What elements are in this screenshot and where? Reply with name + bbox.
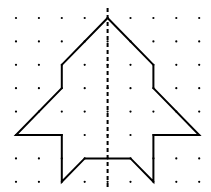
grid-dot	[84, 17, 86, 19]
grid-dot	[15, 157, 17, 159]
grid-dot	[84, 134, 86, 136]
grid-dot	[198, 157, 200, 159]
grid-dot	[61, 40, 63, 42]
grid-dot	[152, 17, 154, 19]
grid-dot	[198, 40, 200, 42]
grid-dot	[107, 181, 109, 183]
grid-dot	[38, 64, 40, 66]
grid-dot	[38, 17, 40, 19]
grid-dot	[175, 87, 177, 89]
grid-dot	[84, 87, 86, 89]
grid-dot	[152, 111, 154, 113]
grid-dot	[198, 17, 200, 19]
grid-dot	[129, 64, 131, 66]
grid-dot	[15, 40, 17, 42]
grid-dot	[15, 111, 17, 113]
grid-dot	[175, 157, 177, 159]
grid-dot	[61, 111, 63, 113]
grid-dot	[84, 181, 86, 183]
grid-dot	[84, 111, 86, 113]
grid-dot	[175, 17, 177, 19]
grid-dot	[129, 17, 131, 19]
grid-dot	[198, 64, 200, 66]
grid-dot	[38, 157, 40, 159]
grid-dot	[198, 87, 200, 89]
grid-dot	[129, 111, 131, 113]
grid-dot	[15, 87, 17, 89]
grid-dot	[38, 40, 40, 42]
grid-dot	[198, 111, 200, 113]
grid-dot	[129, 134, 131, 136]
grid-dot	[84, 64, 86, 66]
symmetry-diagram	[0, 0, 211, 192]
grid-dot	[15, 181, 17, 183]
grid-dot	[15, 17, 17, 19]
grid-dot	[38, 181, 40, 183]
grid-dot	[175, 181, 177, 183]
grid-dot	[152, 40, 154, 42]
grid-dot	[38, 87, 40, 89]
grid-dot	[129, 87, 131, 89]
grid-dot	[175, 40, 177, 42]
grid-dot	[15, 64, 17, 66]
grid-dot	[61, 17, 63, 19]
grid-dot	[175, 64, 177, 66]
grid-dot	[107, 111, 109, 113]
grid-dot	[198, 181, 200, 183]
grid-dot	[129, 181, 131, 183]
grid-dot	[107, 40, 109, 42]
